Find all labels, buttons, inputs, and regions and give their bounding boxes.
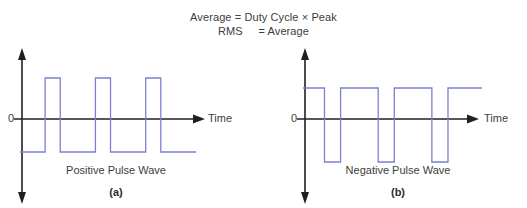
negative-pulse-waveform [303, 88, 482, 162]
pulse-wave-figure: Average = Duty Cycle × Peak RMS = Averag… [0, 0, 527, 208]
arrow-right-icon [467, 115, 479, 124]
time-axis-label-a: Time [208, 112, 232, 124]
time-axis-label-b: Time [484, 112, 508, 124]
caption-negative-pulse: Negative Pulse Wave [288, 164, 508, 177]
subfigure-label-b: (b) [288, 186, 508, 198]
arrow-right-icon [193, 115, 205, 124]
caption-positive-pulse: Positive Pulse Wave [0, 164, 232, 177]
panel-positive-pulse: 0 Time Positive Pulse Wave (a) [0, 0, 270, 208]
subfigure-label-a: (a) [0, 186, 232, 198]
arrow-up-icon [301, 48, 309, 60]
zero-label-b: 0 [291, 112, 297, 124]
positive-pulse-waveform [20, 78, 196, 152]
zero-label-a: 0 [8, 112, 14, 124]
panel-negative-pulse: 0 Time Negative Pulse Wave (b) [270, 0, 527, 208]
arrow-up-icon [18, 48, 26, 60]
